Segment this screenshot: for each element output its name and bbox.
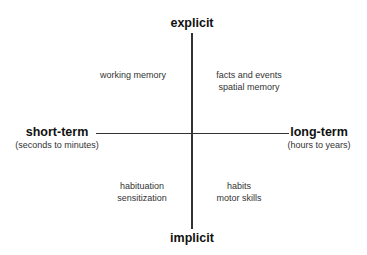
- long-term-title: long-term: [287, 125, 350, 139]
- long-term-sublabel: (hours to years): [287, 140, 350, 150]
- axis-label-implicit: implicit: [170, 231, 214, 245]
- quadrant-top-left: working memory: [100, 70, 166, 82]
- short-term-title: short-term: [15, 125, 99, 139]
- axis-label-long-term: long-term (hours to years): [287, 125, 350, 150]
- vertical-axis-line: [191, 33, 193, 229]
- axis-label-explicit: explicit: [170, 16, 213, 30]
- memory-quadrant-diagram: explicit implicit short-term (seconds to…: [0, 0, 367, 255]
- quadrant-item: facts and events: [216, 70, 282, 82]
- quadrant-item: habits: [216, 181, 261, 193]
- axis-label-short-term: short-term (seconds to minutes): [15, 125, 99, 150]
- quadrant-top-right: facts and events spatial memory: [216, 70, 282, 93]
- quadrant-bottom-left: habituation sensitization: [117, 181, 167, 204]
- horizontal-axis-line: [96, 133, 289, 135]
- quadrant-bottom-right: habits motor skills: [216, 181, 261, 204]
- quadrant-item: sensitization: [117, 193, 167, 205]
- short-term-sublabel: (seconds to minutes): [15, 140, 99, 150]
- quadrant-item: working memory: [100, 70, 166, 82]
- quadrant-item: habituation: [117, 181, 167, 193]
- quadrant-item: spatial memory: [216, 82, 282, 94]
- quadrant-item: motor skills: [216, 193, 261, 205]
